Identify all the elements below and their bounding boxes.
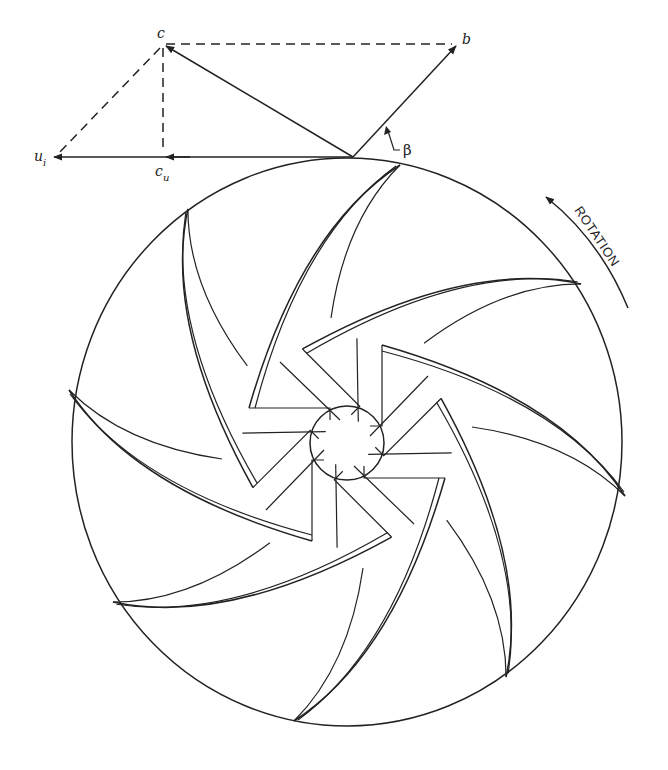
splitter-vane bbox=[331, 165, 400, 318]
blade-root-pocket bbox=[334, 471, 400, 537]
impeller-diagram: c b u i c u β ROTATION bbox=[0, 0, 668, 770]
blade-root-pocket bbox=[294, 349, 360, 415]
impeller bbox=[69, 158, 625, 726]
splitter-vane bbox=[69, 390, 222, 459]
vector-absolute-velocity-c bbox=[166, 46, 353, 157]
impeller-blade bbox=[294, 466, 445, 721]
blade-root-pocket bbox=[253, 430, 319, 496]
blade-root-pocket bbox=[312, 460, 324, 541]
impeller-blade bbox=[370, 345, 625, 496]
blade-root-spoke bbox=[280, 362, 340, 420]
blade-pressure-side bbox=[81, 209, 360, 488]
impeller-hub bbox=[310, 406, 384, 480]
dashed-line-c-to-ui bbox=[58, 48, 160, 154]
splitter-vane bbox=[472, 427, 625, 496]
label-cu: c bbox=[155, 163, 163, 179]
label-u: u bbox=[34, 148, 43, 164]
splitter-vane bbox=[113, 494, 270, 651]
rotation-label: ROTATION bbox=[572, 203, 623, 269]
blade-root-spoke bbox=[354, 466, 414, 524]
splitter-vane bbox=[294, 568, 363, 721]
impeller-blade bbox=[326, 390, 613, 677]
blade-pressure-side bbox=[302, 177, 581, 456]
blade-pressure-side bbox=[334, 398, 613, 677]
blade-pressure-side bbox=[113, 430, 392, 709]
blade-group bbox=[69, 165, 625, 721]
impeller-blade bbox=[69, 390, 324, 541]
blade-root-pocket bbox=[375, 390, 441, 456]
label-u-subscript: i bbox=[43, 157, 46, 168]
beta-angle-pointer bbox=[388, 131, 400, 150]
blade-root-pocket bbox=[364, 466, 445, 478]
beta-pointer-arrowhead bbox=[384, 126, 391, 135]
label-cu-subscript: u bbox=[163, 172, 169, 183]
blade-root-pocket bbox=[249, 408, 330, 420]
label-b: b bbox=[462, 31, 471, 47]
impeller-blade bbox=[81, 209, 368, 496]
blade-root-spoke bbox=[370, 376, 428, 436]
blade-root-spoke bbox=[266, 450, 324, 510]
splitter-vane bbox=[139, 209, 296, 366]
impeller-blade bbox=[249, 165, 400, 420]
velocity-triangle: c b u i c u β bbox=[34, 25, 471, 183]
impeller-blade bbox=[294, 177, 581, 464]
blade-root-pocket bbox=[370, 345, 382, 426]
impeller-blade bbox=[113, 422, 400, 709]
label-c: c bbox=[157, 25, 165, 41]
rotation-indicator: ROTATION bbox=[546, 197, 628, 308]
impeller-outer-rim bbox=[72, 158, 622, 726]
label-beta: β bbox=[403, 141, 412, 159]
